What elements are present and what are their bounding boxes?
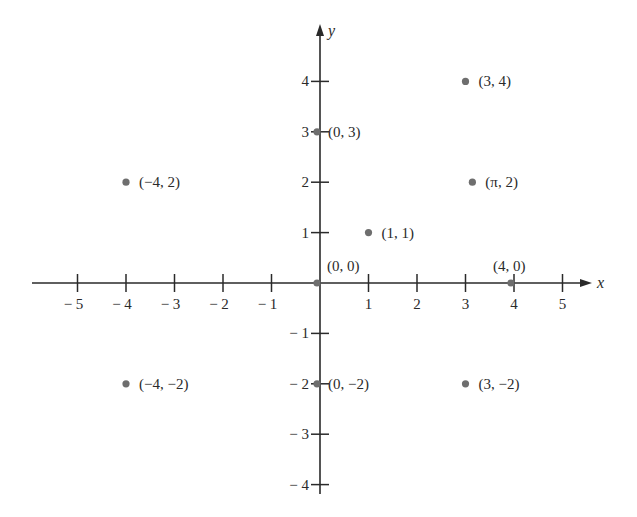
plotted-point: (3, 4) [462, 73, 511, 90]
coordinate-plane-diagram: xy − 5− 4− 3− 2− 112345 − 4− 3− 2− 11234… [0, 0, 637, 517]
x-tick-label: − 3 [161, 296, 181, 312]
x-tick-label: − 5 [64, 296, 84, 312]
point-label: (1, 1) [382, 225, 415, 242]
x-axis-arrow-icon [580, 279, 592, 287]
x-tick-label: − 2 [209, 296, 229, 312]
plotted-point: (1, 1) [365, 225, 414, 242]
point-marker-icon [462, 78, 469, 85]
plotted-point: (−4, −2) [122, 376, 188, 393]
plotted-point: (3, −2) [462, 376, 520, 393]
point-marker-icon [313, 380, 320, 387]
x-axis-ticks: − 5− 4− 3− 2− 112345 [64, 274, 567, 312]
x-tick-label: 3 [462, 296, 470, 312]
point-label: (−4, −2) [139, 376, 188, 393]
x-tick-label: 1 [365, 296, 373, 312]
point-marker-icon [313, 128, 320, 135]
point-marker-icon [507, 279, 514, 286]
point-label: (0, −2) [328, 376, 369, 393]
x-tick-label: 4 [510, 296, 518, 312]
x-tick-label: 2 [413, 296, 421, 312]
y-axis-arrow-icon [316, 24, 324, 36]
point-marker-icon [122, 380, 129, 387]
y-axis-label: y [326, 22, 336, 40]
y-tick-label: 1 [302, 225, 310, 241]
x-tick-label: 5 [559, 296, 567, 312]
point-marker-icon [365, 229, 372, 236]
plotted-point: (π, 2) [469, 174, 518, 191]
point-label: (0, 0) [327, 258, 360, 275]
y-tick-label: 2 [302, 174, 310, 190]
y-tick-label: 3 [302, 124, 310, 140]
y-tick-label: 4 [302, 73, 310, 89]
x-axis-label: x [596, 274, 604, 291]
cartesian-plane: xy − 5− 4− 3− 2− 112345 − 4− 3− 2− 11234… [0, 0, 637, 517]
point-label: (4, 0) [493, 258, 526, 275]
point-marker-icon [122, 179, 129, 186]
y-tick-label: − 3 [289, 426, 309, 442]
point-label: (3, 4) [479, 73, 512, 90]
point-label: (π, 2) [485, 174, 518, 191]
x-tick-label: − 1 [258, 296, 278, 312]
y-tick-label: − 1 [289, 325, 309, 341]
point-marker-icon [313, 279, 320, 286]
x-tick-label: − 4 [112, 296, 132, 312]
point-label: (−4, 2) [139, 174, 180, 191]
point-label: (0, 3) [328, 124, 361, 141]
y-tick-label: − 4 [289, 477, 309, 493]
plotted-point: (−4, 2) [122, 174, 180, 191]
y-tick-label: − 2 [289, 376, 309, 392]
point-marker-icon [462, 380, 469, 387]
point-label: (3, −2) [479, 376, 520, 393]
point-marker-icon [469, 179, 476, 186]
